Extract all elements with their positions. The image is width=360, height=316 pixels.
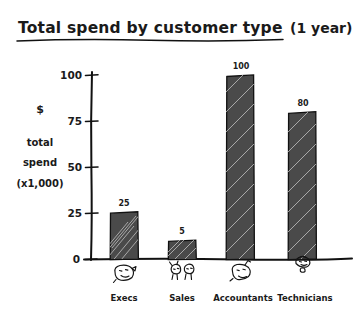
bar-technicians: 80 (276, 94, 326, 284)
bar-accountants: 100 (214, 54, 264, 284)
chart-canvas: Total spend by customer type (1 year) 10… (0, 0, 360, 316)
y-tick-100 (86, 75, 99, 76)
bar-value-technicians: 80 (297, 99, 309, 108)
y-tick-50 (86, 167, 99, 168)
bar-value-sales: 5 (179, 227, 185, 236)
y-axis-label-line-4: (x1,000) (16, 178, 63, 189)
y-tick-label-50: 50 (67, 161, 82, 173)
accountant-face-icon (230, 261, 251, 282)
y-axis-label-line-3: spend (23, 157, 57, 168)
bar-execs: 25 (98, 199, 146, 266)
y-tick-label-100: 100 (60, 69, 82, 81)
hand-drawn-bar-chart: Total spend by customer type (1 year) 10… (0, 0, 360, 316)
category-label-execs: Execs (110, 293, 137, 303)
y-tick-0 (86, 259, 98, 260)
bar-value-accountants: 100 (233, 62, 250, 71)
exec-face-icon (114, 265, 137, 282)
y-axis-line (91, 72, 92, 260)
y-tick-label-0: 0 (73, 253, 80, 265)
chart-title: Total spend by customer type (18, 19, 283, 37)
y-tick-label-75: 75 (67, 115, 82, 127)
category-label-technicians: Technicians (277, 293, 332, 303)
category-label-accountants: Accountants (213, 293, 273, 303)
y-axis-label-line-1: $ (36, 103, 44, 116)
y-tick-label-25: 25 (67, 207, 82, 219)
bar-sales: 5 (162, 227, 202, 266)
y-axis-label-line-2: total (27, 137, 54, 148)
title-underline (17, 40, 283, 41)
chart-title-suffix: (1 year) (290, 20, 352, 36)
y-tick-25 (86, 213, 99, 214)
category-label-sales: Sales (169, 293, 195, 303)
sales-two-people-icon (170, 261, 194, 280)
y-tick-75 (86, 121, 99, 122)
bar-value-execs: 25 (118, 199, 130, 208)
